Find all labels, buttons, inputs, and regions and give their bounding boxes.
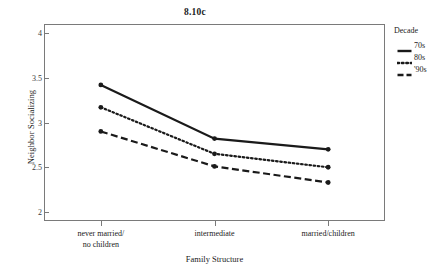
y-tick-mark bbox=[44, 167, 49, 168]
x-tick-mark bbox=[215, 221, 216, 226]
x-tick-label-line: never married/ bbox=[36, 229, 166, 240]
data-point-marker bbox=[98, 105, 103, 110]
x-axis-title: Family Structure bbox=[44, 254, 385, 264]
legend-label: 80s bbox=[414, 53, 425, 62]
y-tick-label: 2 bbox=[14, 208, 42, 217]
legend-item[interactable]: '90s bbox=[397, 63, 440, 75]
x-tick-mark bbox=[328, 221, 329, 226]
x-tick-label-line: married/children bbox=[263, 229, 393, 240]
data-point-marker bbox=[98, 82, 103, 87]
legend-item[interactable]: 80s bbox=[397, 51, 440, 63]
y-tick-mark bbox=[44, 78, 49, 79]
data-point-marker bbox=[212, 151, 217, 156]
legend-item[interactable]: 70s bbox=[397, 39, 440, 51]
y-tick-label: 3.5 bbox=[14, 73, 42, 82]
chart-title: 8.10c bbox=[0, 7, 390, 17]
legend-items: 70s80s'90s bbox=[394, 39, 440, 75]
legend-swatch-solid bbox=[397, 41, 412, 49]
y-tick-label: 2.5 bbox=[14, 163, 42, 172]
data-point-marker bbox=[326, 165, 331, 170]
y-tick-mark bbox=[44, 33, 49, 34]
data-point-marker bbox=[212, 164, 217, 169]
y-tick-label: 3 bbox=[14, 118, 42, 127]
x-tick-label: married/children bbox=[263, 229, 393, 240]
chart-container: 8.10c Neighbor Socializing 43.532.52 nev… bbox=[0, 0, 440, 276]
x-tick-label-line: no children bbox=[36, 240, 166, 251]
legend-label: '90s bbox=[414, 65, 427, 74]
x-tick-label: never married/no children bbox=[36, 229, 166, 250]
legend-swatch-dashed bbox=[397, 65, 412, 73]
x-tick-mark bbox=[101, 221, 102, 226]
y-tick-mark bbox=[44, 123, 49, 124]
data-point-marker bbox=[212, 136, 217, 141]
legend-label: 70s bbox=[414, 41, 425, 50]
data-point-marker bbox=[98, 129, 103, 134]
data-point-marker bbox=[326, 180, 331, 185]
y-tick-label: 4 bbox=[14, 28, 42, 37]
x-tick-label-line: intermediate bbox=[150, 229, 280, 240]
y-tick-mark bbox=[44, 212, 49, 213]
legend-swatch-dotted bbox=[397, 53, 412, 61]
legend-title: Decade bbox=[394, 26, 440, 35]
data-point-marker bbox=[326, 147, 331, 152]
plot-series-layer bbox=[44, 24, 385, 221]
legend: Decade 70s80s'90s bbox=[394, 26, 440, 75]
x-tick-label: intermediate bbox=[150, 229, 280, 240]
